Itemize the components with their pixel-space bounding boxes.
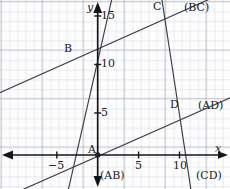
point-label-b: B	[64, 43, 72, 54]
line-label-ab: (AB)	[100, 170, 125, 181]
x-axis-label: x	[215, 143, 221, 154]
line-label-cd: (CD)	[196, 170, 222, 181]
y-tick-label-5: 5	[101, 107, 108, 118]
y-tick-label-10: 10	[101, 58, 115, 69]
point-label-c: C	[153, 1, 161, 12]
x-tick-label-neg5: −5	[48, 160, 64, 171]
line-label-ad: (AD)	[198, 100, 223, 111]
point-label-d: D	[170, 99, 179, 110]
point-label-a: A	[88, 144, 96, 155]
graph-canvas	[0, 0, 230, 189]
x-tick-label-5: 5	[135, 160, 142, 171]
y-tick-label-15: 15	[101, 10, 115, 21]
y-axis-label: y	[87, 2, 93, 13]
coordinate-graph-figure: 15 10 5 −5 5 10 y x A B C D (AB) (BC) (A…	[0, 0, 230, 189]
x-tick-label-10: 10	[173, 160, 187, 171]
line-label-bc: (BC)	[184, 2, 209, 13]
grid-background	[0, 0, 230, 189]
